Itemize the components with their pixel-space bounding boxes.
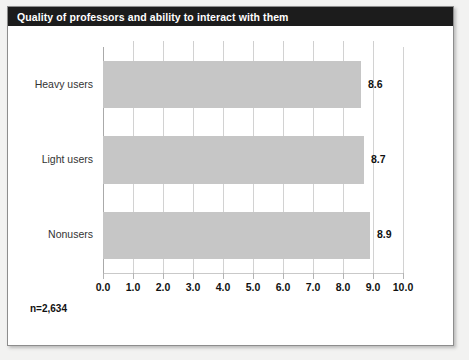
category-label: Heavy users [35,78,93,90]
x-axis-tick [283,273,284,279]
x-axis-tick [223,273,224,279]
x-tick-label: 5.0 [246,281,261,293]
x-tick-label: 4.0 [216,281,231,293]
bar-value-label: 8.6 [368,78,383,90]
bar [103,212,370,259]
chart-title-bar: Quality of professors and ability to int… [8,7,453,26]
gridline [403,47,404,273]
x-tick-label: 10.0 [393,281,413,293]
x-axis-tick [133,273,134,279]
x-axis-tick [163,273,164,279]
category-labels: Heavy usersLight usersNonusers [0,47,93,273]
bar [103,136,364,183]
x-tick-label: 1.0 [126,281,141,293]
x-tick-label: 8.0 [336,281,351,293]
category-label: Nonusers [48,228,93,240]
bar-value-label: 8.9 [377,228,392,240]
x-axis-tick [193,273,194,279]
x-axis-tick [103,273,104,279]
x-axis-tick [343,273,344,279]
chart-title: Quality of professors and ability to int… [17,11,289,23]
plot-area [103,47,403,273]
bar-value-label: 8.7 [371,153,386,165]
x-tick-label: 0.0 [96,281,111,293]
x-tick-label: 7.0 [306,281,321,293]
bar [103,61,361,108]
x-axis-tick [313,273,314,279]
category-label: Light users [42,153,93,165]
x-tick-label: 2.0 [156,281,171,293]
x-axis-tick [403,273,404,279]
x-axis-tick [373,273,374,279]
sample-size-note: n=2,634 [30,303,67,314]
x-tick-label: 3.0 [186,281,201,293]
x-tick-label: 6.0 [276,281,291,293]
x-axis-tick [253,273,254,279]
chart-figure: Quality of professors and ability to int… [0,0,469,360]
x-tick-label: 9.0 [366,281,381,293]
